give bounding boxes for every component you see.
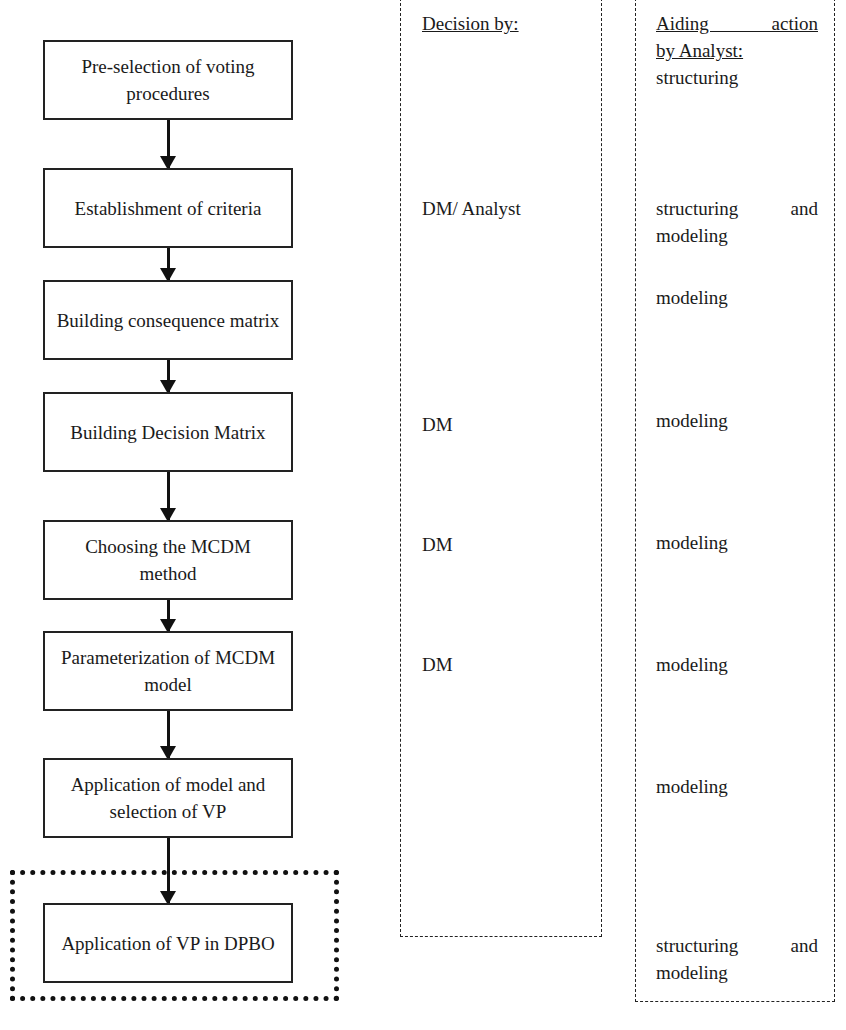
step-choose-mcdm: Choosing the MCDM method xyxy=(43,520,293,600)
aiding-panel-header-2: by Analyst: xyxy=(656,37,743,64)
aiding-entry: modeling xyxy=(656,529,728,556)
arrow-down-icon xyxy=(167,360,170,392)
step-decision-matrix: Building Decision Matrix xyxy=(43,392,293,472)
arrow-down-icon xyxy=(167,472,170,520)
aiding-entry: modeling xyxy=(656,651,728,678)
decision-entry: DM xyxy=(422,651,453,678)
decision-panel xyxy=(400,0,602,937)
step-preselection: Pre-selection of voting procedures xyxy=(43,40,293,120)
arrow-down-icon xyxy=(167,248,170,280)
arrow-down-icon xyxy=(167,120,170,168)
aiding-entry: modeling xyxy=(656,773,728,800)
decision-panel-header: Decision by: xyxy=(422,10,519,37)
aiding-panel xyxy=(635,0,835,1002)
decision-entry: DM xyxy=(422,531,453,558)
aiding-entry: modeling xyxy=(656,407,728,434)
arrow-down-icon xyxy=(167,600,170,631)
decision-entry: DM xyxy=(422,411,453,438)
step-criteria: Establishment of criteria xyxy=(43,168,293,248)
arrow-down-icon xyxy=(167,711,170,758)
aiding-panel-header: Aiding action xyxy=(656,10,818,37)
step-consequence-matrix: Building consequence matrix xyxy=(43,280,293,360)
arrow-down-icon xyxy=(167,838,170,903)
decision-entry: DM/ Analyst xyxy=(422,195,521,222)
step-apply-vp-dpbo: Application of VP in DPBO xyxy=(43,903,293,983)
aiding-entry: modeling xyxy=(656,222,728,249)
aiding-entry: modeling xyxy=(656,284,728,311)
step-parameterization: Parameterization of MCDM model xyxy=(43,631,293,711)
aiding-entry: structuring xyxy=(656,64,738,91)
aiding-entry: structuring and xyxy=(656,932,818,959)
step-apply-model: Application of model and selection of VP xyxy=(43,758,293,838)
aiding-entry: modeling xyxy=(656,959,728,986)
aiding-entry: structuring and xyxy=(656,195,818,222)
